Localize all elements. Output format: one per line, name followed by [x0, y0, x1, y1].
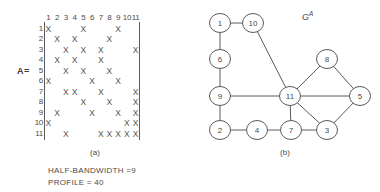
matrix-entry: X [44, 118, 53, 128]
matrix-entry: X [88, 76, 97, 86]
caption-b: (b) [190, 148, 380, 157]
graph-node-label: 11 [286, 92, 295, 101]
matrix-entry: X [131, 129, 140, 139]
graph-name-label: GA [302, 10, 313, 22]
graph-edge [297, 66, 321, 90]
matrix-entry: X [70, 87, 79, 97]
matrix-entry: X [79, 66, 88, 76]
matrix-entry: X [44, 24, 53, 34]
matrix-row-header: 10 [35, 118, 43, 128]
graph-node[interactable]: 7 [281, 121, 302, 140]
graph-node[interactable]: 5 [350, 87, 371, 106]
graph-node[interactable]: 10 [243, 14, 264, 33]
matrix-entry: X [123, 129, 132, 139]
graph-node-label: 5 [358, 92, 363, 101]
graph-node[interactable]: 3 [317, 121, 338, 140]
matrix-entry: X [79, 24, 88, 34]
matrix-entry: X [114, 108, 123, 118]
matrix-entry: X [61, 66, 70, 76]
graph-node-label: 2 [218, 126, 223, 135]
matrix-entry: X [70, 55, 79, 65]
matrix-row-header: 6 [39, 76, 43, 86]
matrix-entry: X [114, 24, 123, 34]
graph-node-label: 7 [289, 126, 294, 135]
matrix-entry: X [61, 45, 70, 55]
matrix-entry: X [131, 87, 140, 97]
matrix-entry: X [123, 118, 132, 128]
graph-node-label: 4 [255, 126, 260, 135]
graph-node-layer: 1106924711358 [210, 14, 371, 140]
matrix-entry: X [105, 34, 114, 44]
matrix-row-header: 1 [39, 24, 43, 34]
matrix-row-header: 11 [35, 129, 43, 139]
matrix-entry: X [105, 129, 114, 139]
matrix-row-header: 7 [39, 87, 43, 97]
graph-node-label: 6 [218, 55, 223, 64]
figure-root: A= 1234567891011 1234567891011 XXXXXXXXX… [0, 0, 380, 192]
matrix-entry: X [114, 76, 123, 86]
matrix-entry: X [53, 55, 62, 65]
matrix-entry: X [131, 97, 140, 107]
matrix-stats: HALF-BANDWIDTH =9 PROFILE = 40 [48, 165, 136, 189]
graph-edge [333, 66, 353, 89]
matrix-row-header: 5 [39, 66, 43, 76]
graph-name-base: G [302, 12, 309, 22]
matrix-row-headers: 1234567891011 [26, 24, 43, 139]
graph-node[interactable]: 4 [247, 121, 268, 140]
matrix-entry: X [114, 129, 123, 139]
graph-node-label: 1 [218, 19, 223, 28]
matrix-grid: XXXXXXXXXXXXXXXXXXXXXXXXXXXXXXXXXXXXXXX [44, 22, 140, 140]
matrix-entry: X [105, 66, 114, 76]
matrix-entry: X [96, 55, 105, 65]
matrix-entry: X [96, 87, 105, 97]
graph-node-label: 3 [325, 126, 330, 135]
matrix-entry: X [131, 118, 140, 128]
profile-text: PROFILE = 40 [48, 177, 136, 189]
panel-graph: 1106924711358 GA (b) [190, 0, 380, 192]
matrix-entry: X [61, 129, 70, 139]
matrix-entry: X [131, 108, 140, 118]
graph-node[interactable]: 11 [280, 87, 301, 106]
matrix-entry: X [70, 34, 79, 44]
graph-node-label: 8 [325, 55, 330, 64]
matrix-row-header: 3 [39, 45, 43, 55]
graph-node[interactable]: 6 [210, 50, 231, 69]
matrix-entry: X [53, 34, 62, 44]
matrix-row-header: 8 [39, 97, 43, 107]
matrix-entry: X [131, 45, 140, 55]
graph-edge [297, 102, 320, 123]
graph-canvas: 1106924711358 [190, 0, 380, 150]
matrix-entry: X [88, 108, 97, 118]
matrix-entry: X [44, 76, 53, 86]
graph-node-label: 10 [249, 19, 258, 28]
graph-node-label: 9 [218, 92, 223, 101]
matrix-entry: X [79, 97, 88, 107]
graph-node[interactable]: 2 [210, 121, 231, 140]
matrix-entry: X [96, 129, 105, 139]
panel-matrix: A= 1234567891011 1234567891011 XXXXXXXXX… [0, 0, 190, 192]
graph-edge [257, 31, 285, 87]
graph-node[interactable]: 8 [317, 50, 338, 69]
matrix-entry: X [53, 108, 62, 118]
matrix-row-header: 9 [39, 108, 43, 118]
graph-name-superscript: A [309, 10, 313, 17]
half-bandwidth-text: HALF-BANDWIDTH =9 [48, 165, 136, 177]
matrix-entry: X [61, 87, 70, 97]
graph-edge [334, 103, 354, 123]
matrix-row-header: 4 [39, 55, 43, 65]
caption-a: (a) [0, 148, 190, 157]
matrix-entry: X [96, 45, 105, 55]
graph-node[interactable]: 9 [210, 87, 231, 106]
matrix-entry: X [105, 97, 114, 107]
matrix-row-header: 2 [39, 34, 43, 44]
graph-node[interactable]: 1 [210, 14, 231, 33]
matrix-entry: X [79, 45, 88, 55]
graph-edge-layer [220, 23, 354, 130]
